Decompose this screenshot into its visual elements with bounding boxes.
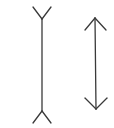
top-fin [42, 7, 51, 19]
bottom-fin [33, 111, 42, 123]
diagram-svg [0, 0, 114, 128]
bottom-fin [85, 98, 96, 109]
left-line-fins-out [33, 7, 51, 123]
top-fin [85, 18, 95, 30]
bottom-fin [42, 111, 51, 123]
bottom-fin [96, 98, 107, 109]
right-line-arrowheads [85, 18, 107, 109]
top-fin [95, 18, 106, 30]
top-fin [33, 7, 42, 19]
muller-lyer-diagram [0, 0, 114, 128]
shaft-line [95, 18, 96, 109]
